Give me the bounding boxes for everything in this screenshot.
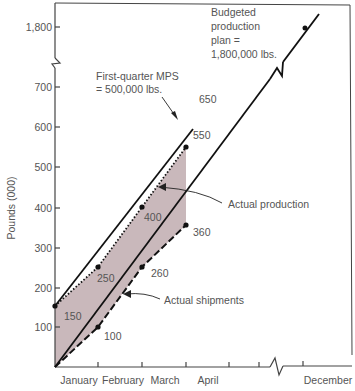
chart: 1,800 700 600 500 400 300 200 100 Pounds…	[0, 0, 355, 391]
y-tick-600: 600	[34, 121, 52, 133]
mps-arrowhead-icon	[171, 111, 178, 120]
x-axis	[55, 358, 352, 375]
x-tick-february: February	[102, 374, 145, 386]
label-400: 400	[144, 211, 162, 223]
y-tick-500: 500	[34, 161, 52, 173]
label-150: 150	[64, 310, 82, 322]
y-tick-700: 700	[34, 81, 52, 93]
mps-annotation-line1: First-quarter MPS	[96, 70, 179, 82]
label-260: 260	[151, 267, 169, 279]
shipment-point-mar	[183, 222, 188, 227]
production-point-feb	[139, 204, 144, 209]
y-tick-100: 100	[34, 321, 52, 333]
y-tick-400: 400	[34, 202, 52, 214]
label-100: 100	[104, 330, 122, 342]
label-550: 550	[193, 129, 211, 141]
production-point-mar	[183, 144, 188, 149]
label-360: 360	[193, 226, 211, 238]
shipment-point-jan	[95, 324, 100, 329]
shipment-point-feb	[139, 264, 144, 269]
budget-annotation-line2: production	[211, 20, 260, 32]
y-tick-1800: 1,800	[26, 21, 52, 33]
actual-shipments-annotation: Actual shipments	[164, 294, 244, 306]
production-point-start	[52, 303, 57, 308]
y-tick-300: 300	[34, 242, 52, 254]
x-tick-march: March	[150, 374, 179, 386]
production-point-jan	[95, 264, 100, 269]
x-tick-december: December	[304, 374, 353, 386]
label-250: 250	[97, 272, 115, 284]
budget-point	[303, 26, 308, 31]
actual-production-annotation: Actual production	[228, 198, 309, 210]
x-tick-april: April	[197, 374, 218, 386]
shipments-arrow	[126, 294, 160, 299]
y-axis-title: Pounds (000)	[5, 176, 17, 239]
budget-annotation-line4: 1,800,000 lbs.	[211, 48, 277, 60]
budget-annotation-line3: plan =	[211, 34, 240, 46]
mps-annotation-line2: = 500,000 lbs.	[96, 83, 162, 95]
label-650: 650	[199, 93, 217, 105]
x-tick-january: January	[60, 374, 98, 386]
y-tick-200: 200	[34, 282, 52, 294]
budget-annotation-line1: Budgeted	[211, 6, 256, 18]
